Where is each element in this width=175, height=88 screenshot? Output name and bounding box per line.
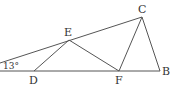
label-D: D — [29, 74, 38, 87]
segment-DE — [34, 40, 69, 71]
segment-vertex-to-C — [0, 17, 142, 63]
label-B: B — [162, 65, 170, 78]
label-E: E — [64, 26, 72, 39]
geometry-diagram: C E D F B 13° — [0, 0, 175, 88]
angle-label: 13° — [3, 61, 19, 71]
segment-EF — [69, 40, 119, 71]
label-C: C — [138, 3, 146, 16]
segment-FC — [119, 17, 142, 71]
segment-CB — [142, 17, 160, 71]
label-F: F — [115, 74, 123, 87]
